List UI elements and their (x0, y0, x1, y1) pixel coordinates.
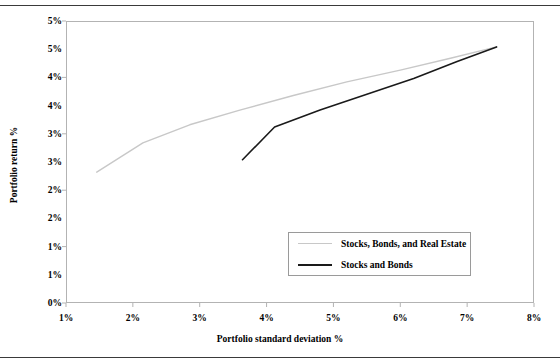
x-tick-label: 5% (313, 313, 353, 323)
y-tick-label: 0% (22, 298, 62, 308)
top-horizontal-rule (0, 5, 560, 6)
x-tick-label: 1% (46, 313, 86, 323)
y-tick-label: 2% (22, 185, 62, 195)
y-tick-label: 4% (22, 72, 62, 82)
legend-swatch-icon-0 (298, 239, 332, 249)
x-axis-tick-labels: 1%2%3%4%5%6%7%8% (0, 313, 560, 327)
y-axis-title: Portfolio return % (9, 95, 19, 235)
x-axis-title: Portfolio standard deviation % (0, 334, 560, 344)
x-tick-label: 3% (180, 313, 220, 323)
y-tick-label: 1% (22, 242, 62, 252)
x-tick-label: 8% (514, 313, 554, 323)
legend-label-1: Stocks and Bonds (341, 260, 413, 270)
x-tick-label: 4% (247, 313, 287, 323)
y-tick-label: 3% (22, 157, 62, 167)
x-tick-label: 6% (380, 313, 420, 323)
x-tick-label: 2% (113, 313, 153, 323)
x-tick-label: 7% (447, 313, 487, 323)
chart-legend: Stocks, Bonds, and Real Estate Stocks an… (288, 232, 471, 276)
y-tick-label: 2% (22, 213, 62, 223)
efficient-frontier-figure: 5%5%4%4%3%3%2%2%1%1%0% 1%2%3%4%5%6%7%8% … (0, 0, 560, 363)
y-tick-label: 1% (22, 270, 62, 280)
y-tick-label: 3% (22, 129, 62, 139)
legend-label-0: Stocks, Bonds, and Real Estate (341, 239, 466, 249)
y-tick-label: 4% (22, 101, 62, 111)
legend-entry-stocks-bonds-real-estate: Stocks, Bonds, and Real Estate (289, 233, 472, 255)
legend-swatch-icon-1 (298, 260, 332, 270)
y-tick-label: 5% (22, 16, 62, 26)
legend-entry-stocks-and-bonds: Stocks and Bonds (289, 254, 472, 276)
bottom-horizontal-rule (0, 357, 560, 358)
y-axis-tick-labels: 5%5%4%4%3%3%2%2%1%1%0% (18, 0, 62, 363)
y-tick-label: 5% (22, 44, 62, 54)
